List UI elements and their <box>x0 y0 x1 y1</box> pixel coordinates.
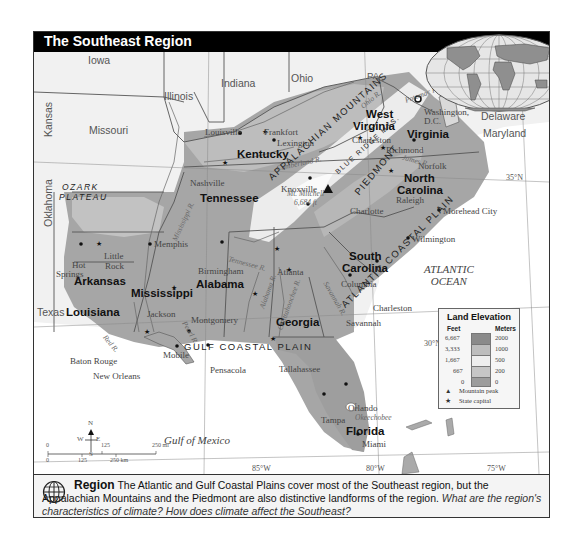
city-baton-rouge: Baton Rouge <box>70 356 117 366</box>
scale-km-0: 0 <box>46 457 49 463</box>
city-new-orleans: New Orleans <box>93 371 140 381</box>
city-tallahassee: Tallahassee <box>279 364 320 374</box>
city-orlando: Orlando <box>348 403 378 413</box>
city-pensacola: Pensacola <box>210 365 246 375</box>
legend-m-200: 200 <box>495 367 505 374</box>
svg-text:★: ★ <box>388 167 394 175</box>
label-missouri: Missouri <box>89 124 128 136</box>
city-montgomery: Montgomery <box>191 315 238 325</box>
scale-km-250: 250 km <box>110 457 128 463</box>
legend-mountain-peak-label: Mountain peak <box>459 387 498 394</box>
label-mississippi: Mississippi <box>131 287 193 299</box>
caption-heading: Region <box>74 478 115 492</box>
globe-icon <box>42 480 66 504</box>
scale-mi-125: 125 <box>101 442 110 448</box>
label-south-carolina-line1: South <box>349 250 382 262</box>
svg-text:★: ★ <box>274 245 280 253</box>
legend-m-1000: 1000 <box>495 345 508 352</box>
legend-swatch-0 <box>471 377 491 387</box>
grid-35n: 35°N <box>506 173 523 182</box>
legend-meters-header: Meters <box>495 325 516 332</box>
legend-title: Land Elevation <box>439 312 519 322</box>
label-virginia: Virginia <box>407 128 449 140</box>
label-florida: Florida <box>346 425 384 437</box>
world-locator-globe <box>425 34 550 112</box>
legend-ft-0: 0 <box>461 378 464 385</box>
city-charlotte: Charlotte <box>350 206 384 216</box>
city-little-rock-line2: Rock <box>105 261 124 271</box>
legend-m-2000: 2000 <box>495 334 508 341</box>
city-birmingham: Birmingham <box>198 266 244 276</box>
lake-okeechobee-line2: Okeechobee <box>355 413 392 422</box>
atlantic-line1: ATLANTIC <box>424 263 474 275</box>
grid-75w: 75°W <box>487 464 506 473</box>
legend-ft-3333: 3,333 <box>445 345 460 352</box>
city-jackson: Jackson <box>147 309 176 319</box>
city-washington-line2: D.C. <box>424 116 441 126</box>
legend-state-capital-label: State capital <box>459 397 491 404</box>
map-title: The Southeast Region <box>44 33 192 49</box>
city-savannah: Savannah <box>346 318 381 328</box>
elevation-legend: Land Elevation Feet Meters 6,667 3,333 1… <box>438 308 520 409</box>
label-kansas: Kansas <box>42 102 54 137</box>
label-iowa: Iowa <box>88 54 110 66</box>
grid-80w: 80°W <box>366 464 385 473</box>
label-oklahoma: Oklahoma <box>42 179 54 227</box>
label-ozark-line1: OZARK <box>62 182 99 192</box>
label-alabama: Alabama <box>196 278 244 290</box>
city-hot-springs-line2: Springs <box>56 269 84 279</box>
caption-text: Region The Atlantic and Gulf Coastal Pla… <box>42 479 542 518</box>
atlantic-line2: OCEAN <box>424 275 474 287</box>
legend-feet-header: Feet <box>447 325 460 332</box>
city-atlanta: Atlanta <box>277 267 304 277</box>
label-indiana: Indiana <box>221 77 255 89</box>
label-atlantic-ocean: ATLANTIC OCEAN <box>424 263 474 287</box>
map-frame: ★ ★ ★ ★ ★ ★ ★ ★ ★ ★ ★ ★ <box>33 31 550 518</box>
legend-m-500: 500 <box>495 356 505 363</box>
lake-okeechobee-line1: L. <box>354 402 360 411</box>
label-louisiana: Louisiana <box>66 306 120 318</box>
legend-ft-6667: 6,667 <box>445 334 460 341</box>
scale-bar: 0 125 250 mi 0 125 250 km <box>44 442 184 470</box>
label-gulf-coastal-plain: GULF COASTAL PLAIN <box>184 341 312 352</box>
label-mt-mitchell-line2: 6,684 ft <box>294 198 317 207</box>
scale-km-125: 125 <box>78 457 87 463</box>
label-tennessee: Tennessee <box>200 192 259 204</box>
legend-ft-667: 667 <box>453 367 463 374</box>
svg-text:★: ★ <box>252 290 258 298</box>
city-frankfort: Frankfort <box>264 127 298 137</box>
label-texas: Texas <box>37 306 64 318</box>
city-louisville: Louisville <box>205 127 242 137</box>
label-maryland: Maryland <box>483 127 526 139</box>
legend-state-capital-icon: ★ <box>445 397 451 405</box>
legend-m-0: 0 <box>495 378 498 385</box>
label-west-virginia-line1: West <box>366 108 393 120</box>
svg-text:★: ★ <box>144 328 150 336</box>
legend-mountain-peak-icon: ▲ <box>445 387 451 394</box>
city-miami: Miami <box>362 439 386 449</box>
label-ohio: Ohio <box>291 72 313 84</box>
svg-text:★: ★ <box>222 159 228 167</box>
scale-mi-0: 0 <box>46 442 49 448</box>
city-morehead-city: Morehead City <box>443 206 497 216</box>
grid-85w: 85°W <box>252 464 271 473</box>
city-tampa: Tampa <box>321 415 345 425</box>
label-north-carolina-line1: North <box>404 172 435 184</box>
city-raleigh: Raleigh <box>396 195 424 205</box>
label-mt-mitchell-line1: Mt. Mitchell <box>287 189 324 198</box>
label-ozark-line2: PLATEAU <box>59 192 108 202</box>
city-nashville: Nashville <box>190 178 225 188</box>
legend-ft-1667: 1,667 <box>445 356 460 363</box>
city-charleston-sc: Charleston <box>373 303 412 313</box>
label-kentucky: Kentucky <box>237 148 289 160</box>
city-memphis: Memphis <box>154 239 188 249</box>
label-illinois: Illinois <box>164 90 193 102</box>
svg-text:★: ★ <box>96 240 102 248</box>
compass-n: N <box>88 419 93 427</box>
city-little-rock-line1: Little <box>104 251 124 261</box>
scale-mi-250: 250 mi <box>152 442 169 448</box>
caption-box: Region The Atlantic and Gulf Coastal Pla… <box>34 474 549 518</box>
